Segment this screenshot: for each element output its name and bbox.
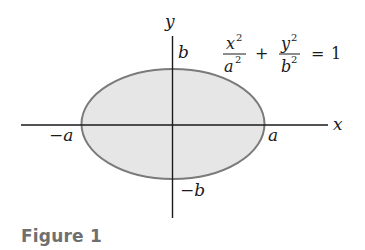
eq-b-exp: 2 [291, 54, 297, 65]
eq-y: y [280, 34, 291, 53]
eq-plus: + [255, 44, 268, 63]
figure-caption: Figure 1 [21, 226, 102, 246]
ellipse-diagram: x y b −b a −a x 2 a 2 + y 2 b 2 = 1 [0, 0, 365, 250]
label-a: a [268, 125, 278, 145]
ellipse-equation: x 2 a 2 + y 2 b 2 = 1 [223, 32, 341, 76]
x-axis-label: x [333, 114, 343, 134]
eq-x-exp: 2 [236, 32, 242, 43]
eq-rhs: 1 [331, 44, 341, 63]
eq-x: x [226, 34, 235, 53]
eq-equals: = [311, 44, 324, 63]
label-neg-b: −b [180, 180, 205, 200]
eq-y-exp: 2 [291, 32, 297, 43]
eq-a: a [224, 57, 234, 76]
eq-b: b [281, 57, 291, 76]
y-axis-label: y [164, 11, 175, 31]
label-b: b [178, 42, 189, 62]
eq-a-exp: 2 [235, 54, 241, 65]
label-neg-a: −a [49, 125, 73, 145]
